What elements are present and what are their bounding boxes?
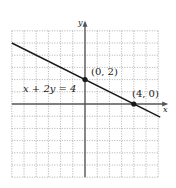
intercept-point bbox=[131, 101, 136, 106]
intercept-point bbox=[82, 77, 87, 82]
point-label-4-0: (4, 0) bbox=[132, 88, 159, 99]
axes bbox=[12, 21, 168, 177]
equation-label: x + 2y = 4 bbox=[23, 83, 77, 94]
x-axis-label: x bbox=[163, 105, 168, 114]
graph: y x x + 2y = 4 (0, 2) (4, 0) bbox=[0, 0, 176, 188]
y-axis-arrow-icon bbox=[83, 21, 88, 27]
point-label-0-2: (0, 2) bbox=[91, 66, 118, 77]
y-axis-label: y bbox=[77, 18, 83, 27]
